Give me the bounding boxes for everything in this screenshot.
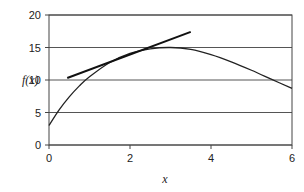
x-axis-ticks: 0246 [46, 145, 295, 164]
y-tick-label: 5 [35, 107, 41, 119]
y-tick-label: 15 [29, 42, 41, 54]
x-tick-label: 0 [46, 152, 52, 164]
tangent-line [67, 32, 191, 78]
x-tick-label: 2 [127, 152, 133, 164]
chart: 05101520 0246 f(x) x [0, 0, 304, 192]
x-tick-label: 4 [208, 152, 214, 164]
y-tick-label: 20 [29, 9, 41, 21]
x-tick-label: 6 [289, 152, 295, 164]
x-axis-label: x [161, 172, 168, 186]
y-tick-label: 0 [35, 139, 41, 151]
function-curve [49, 47, 292, 125]
y-axis-label: f(x) [22, 73, 39, 87]
